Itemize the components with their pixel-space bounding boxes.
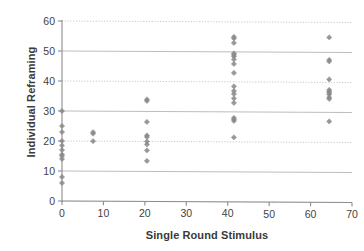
- y-tick-label: 30: [43, 105, 55, 117]
- data-point: [59, 123, 64, 128]
- data-point: [231, 40, 236, 45]
- data-points: [59, 34, 331, 185]
- data-point: [231, 61, 236, 66]
- data-point: [231, 70, 236, 75]
- x-axis-ticks: 010203040506070: [59, 201, 358, 220]
- y-tick-label: 60: [43, 15, 55, 27]
- x-tick-label: 30: [180, 207, 192, 219]
- data-point: [59, 174, 64, 179]
- y-tick-label: 20: [43, 135, 55, 147]
- data-point: [327, 77, 332, 82]
- data-point: [144, 148, 149, 153]
- x-tick-label: 40: [222, 207, 234, 219]
- data-point: [144, 119, 149, 124]
- data-point: [59, 129, 64, 134]
- y-tick-label: 0: [49, 195, 55, 207]
- y-tick-label: 50: [43, 45, 55, 57]
- plot-area: 0102030405060 010203040506070: [0, 0, 364, 251]
- data-point: [327, 35, 332, 40]
- x-tick-label: 50: [263, 208, 275, 220]
- x-tick-label: 20: [139, 207, 151, 219]
- data-point: [231, 100, 236, 105]
- x-tick-label: 0: [59, 207, 65, 219]
- data-point: [144, 158, 149, 163]
- data-point: [59, 180, 64, 185]
- gridlines: [62, 21, 352, 203]
- x-tick-label: 70: [346, 208, 358, 220]
- data-point: [327, 119, 332, 124]
- y-tick-label: 40: [43, 75, 55, 87]
- y-tick-label: 10: [43, 165, 55, 177]
- scatter-chart-figure: Individual Reframing Single Round Stimul…: [0, 0, 364, 251]
- x-tick-label: 10: [98, 207, 110, 219]
- data-point: [231, 135, 236, 140]
- data-point: [90, 139, 95, 144]
- x-tick-label: 60: [305, 208, 317, 220]
- data-point: [59, 108, 64, 113]
